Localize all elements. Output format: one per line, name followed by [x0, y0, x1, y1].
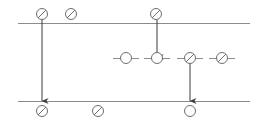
node-slashed-circle-n3[interactable]	[151, 9, 162, 20]
lifeline-group	[18, 23, 250, 101]
diagram-svg	[0, 0, 266, 126]
arrow-group	[42, 20, 190, 101]
node-slashed-circle-n9[interactable]	[93, 106, 104, 117]
circle-icon	[152, 53, 163, 64]
node-slashed-circle-n8[interactable]	[37, 106, 48, 117]
circle-icon	[185, 106, 196, 117]
node-slashed-circle-n7[interactable]	[217, 53, 228, 64]
diagram-canvas	[0, 0, 266, 126]
node-open-circle-n5[interactable]	[152, 53, 163, 64]
node-open-circle-n4[interactable]	[121, 53, 132, 64]
node-slashed-circle-n2[interactable]	[66, 9, 77, 20]
node-slashed-circle-n6[interactable]	[185, 53, 196, 64]
node-open-circle-n10[interactable]	[185, 106, 196, 117]
node-group	[37, 9, 228, 117]
node-slashed-circle-n1[interactable]	[37, 9, 48, 20]
circle-icon	[121, 53, 132, 64]
